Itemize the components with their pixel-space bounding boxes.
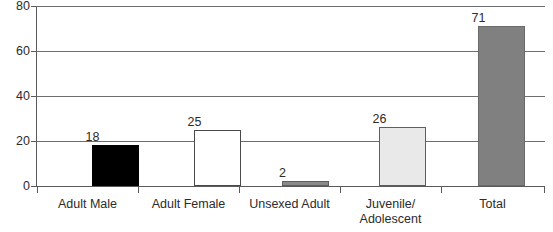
bar-chart: 80 60 40 20 0 18 25 2 26 71 [0,0,553,232]
bar-value-unsexed-adult: 2 [259,167,306,180]
y-tick-label-40: 40 [2,90,30,102]
category-label-total-line1: Total [479,197,505,211]
bar-juvenile-adolescent[interactable] [379,127,426,186]
category-tick-3 [340,187,341,193]
category-label-adult-female-line1: Adult Female [152,197,226,211]
category-tick-4 [441,187,442,193]
category-label-adult-female: Adult Female [138,197,239,212]
category-label-adult-male: Adult Male [37,197,138,212]
y-tick-label-0: 0 [2,180,30,192]
plot-area [36,6,545,186]
category-label-adult-male-line1: Adult Male [58,197,117,211]
gridline-80 [36,6,545,7]
gridline-40 [36,96,545,97]
category-tick-2 [239,187,240,193]
bar-value-juvenile-adolescent: 26 [356,113,403,126]
bar-value-total: 71 [455,12,502,25]
y-tick-label-80: 80 [2,0,30,12]
category-label-juvenile-adolescent-line2: Adolescent [360,212,422,226]
gridline-60 [36,51,545,52]
bar-total[interactable] [478,26,525,186]
category-tick-0 [37,187,38,193]
category-label-unsexed-adult-line1: Unsexed Adult [249,197,330,211]
y-axis-labels: 80 60 40 20 0 [0,0,30,232]
bar-value-adult-female: 25 [171,116,218,129]
category-tick-5 [544,187,545,193]
category-label-juvenile-adolescent: Juvenile/ Adolescent [340,197,441,227]
category-label-total: Total [441,197,544,212]
bar-unsexed-adult[interactable] [282,181,329,186]
category-label-unsexed-adult: Unsexed Adult [239,197,340,212]
y-tick-label-60: 60 [2,45,30,57]
y-tick-label-20: 20 [2,135,30,147]
bar-adult-male[interactable] [92,145,139,186]
category-tick-1 [138,187,139,193]
gridline-baseline-0 [36,186,545,187]
bar-value-adult-male: 18 [69,131,116,144]
bar-adult-female[interactable] [194,130,241,186]
category-label-juvenile-adolescent-line1: Juvenile/ [366,197,415,211]
